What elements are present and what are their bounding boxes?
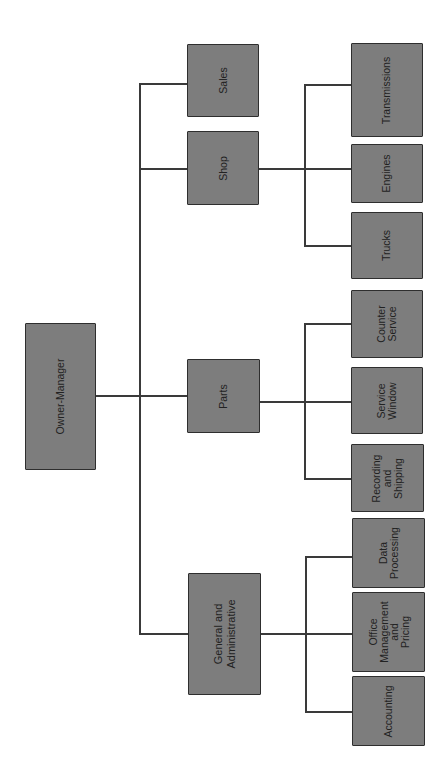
connector-ga-branch (305, 556, 307, 713)
node-label: Data Processing (377, 527, 399, 579)
node-sales: Sales (187, 44, 259, 117)
node-service-window: Service Window (351, 367, 423, 434)
connector-to-transmissions (304, 84, 351, 86)
node-label: Recording and Shipping (371, 454, 404, 502)
connector-to-accounting (305, 711, 352, 713)
node-office-management-pricing: Office Management and Pricing (352, 592, 425, 672)
node-label: Parts (218, 384, 229, 409)
connector-trunk-to-ga (139, 633, 188, 635)
connector-owner-to-trunk (95, 395, 140, 397)
node-label: Service Window (376, 382, 398, 419)
node-engines: Engines (351, 144, 423, 203)
node-counter-service: Counter Service (351, 290, 423, 358)
node-accounting: Accounting (352, 676, 425, 746)
node-recording-shipping: Recording and Shipping (351, 444, 424, 512)
node-label: Transmissions (381, 56, 392, 123)
connector-shop-branch (304, 84, 306, 246)
node-transmissions: Transmissions (351, 43, 423, 137)
connector-to-counter-service (304, 323, 351, 325)
connector-to-recording-shipping (304, 478, 351, 480)
node-label: Shop (218, 156, 229, 181)
node-label: Trucks (382, 230, 393, 261)
node-owner-manager: Owner-Manager (25, 323, 96, 470)
connector-parts-branch (304, 323, 306, 480)
node-label: Office Management and Pricing (367, 601, 409, 662)
node-label: Engines (381, 155, 392, 193)
connector-main-trunk (139, 83, 141, 634)
connector-trunk-to-sales (139, 83, 187, 85)
connector-trunk-to-shop (139, 168, 187, 170)
node-trucks: Trucks (351, 212, 423, 279)
node-label: General and Administrative (211, 599, 237, 668)
node-label: Accounting (383, 685, 394, 737)
node-label: Owner-Manager (55, 359, 66, 435)
connector-trunk-to-parts (139, 395, 187, 397)
node-shop: Shop (187, 131, 259, 205)
connector-to-trucks (304, 245, 351, 247)
node-parts: Parts (187, 359, 260, 433)
connector-to-data-processing (305, 556, 352, 558)
node-label: Counter Service (376, 305, 398, 342)
node-label: Sales (217, 67, 228, 93)
node-general-administrative: General and Administrative (188, 573, 261, 695)
node-data-processing: Data Processing (352, 518, 425, 588)
